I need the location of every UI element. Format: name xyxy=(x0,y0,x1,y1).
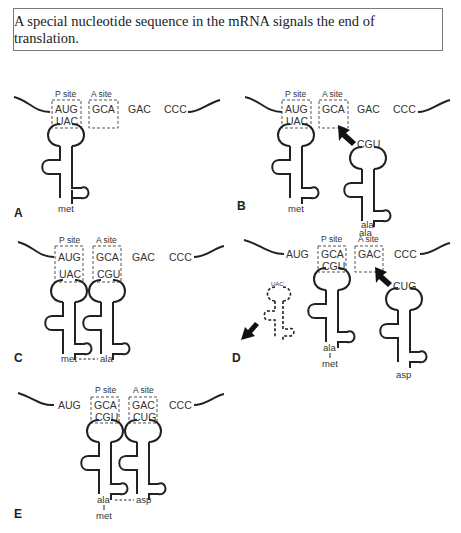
codon: GAC xyxy=(358,248,381,260)
codon: GAC xyxy=(132,251,155,263)
panel-label: B xyxy=(237,199,246,213)
a-site-label: A site xyxy=(96,235,117,245)
a-site-label: A site xyxy=(133,385,154,395)
panel-d: ala AUG P site A site GCA GAC CCC CGU UA… xyxy=(232,219,450,380)
codon: AUG xyxy=(58,251,81,263)
codon: AUG xyxy=(285,103,308,115)
codon: GCA xyxy=(322,103,345,115)
codon: GAC xyxy=(357,103,380,115)
panel-b: P site A site AUG GCA GAC CCC UAC met CG… xyxy=(237,89,450,238)
codon: AUG xyxy=(55,103,78,115)
codon: GCA xyxy=(96,251,119,263)
codon: GCA xyxy=(321,248,344,260)
panel-label: A xyxy=(14,206,23,220)
translation-diagram: P site A site AUG GCA GAC CCC UAC met A … xyxy=(0,0,461,533)
codon: CCC xyxy=(164,103,187,115)
codon: CCC xyxy=(393,103,416,115)
trna-released xyxy=(264,287,294,341)
codon: GAC xyxy=(132,399,155,411)
a-site-label: A site xyxy=(91,89,112,99)
codon: GCA xyxy=(92,103,115,115)
trna-ala xyxy=(83,280,129,360)
trna-ala xyxy=(344,147,390,227)
trna-ala xyxy=(308,268,354,348)
amino-acid: ala xyxy=(323,342,336,353)
amino-acid: ala xyxy=(100,353,113,364)
panel-label: D xyxy=(232,351,241,365)
codon: CCC xyxy=(394,248,417,260)
panel-c: P site A site AUG GCA GAC CCC UAC CGU me… xyxy=(14,235,224,365)
codon: CCC xyxy=(169,251,192,263)
released-anticodon: UAC xyxy=(271,281,284,287)
panel-e: AUG P site A site GCA GAC CCC CGU CUG al… xyxy=(14,385,224,521)
panel-label: E xyxy=(14,507,22,521)
top-label: ala xyxy=(361,219,374,230)
arrow-icon xyxy=(241,322,259,340)
codon: GCA xyxy=(94,399,117,411)
codon: AUG xyxy=(58,399,81,411)
a-site-label: A site xyxy=(322,89,343,99)
codon: GAC xyxy=(128,103,151,115)
amino-acid: asp xyxy=(396,369,411,380)
amino-acid: met xyxy=(322,358,338,369)
anticodon: CGU xyxy=(97,268,120,280)
p-site-label: P site xyxy=(59,235,80,245)
amino-acid: met xyxy=(288,203,304,214)
trna-met xyxy=(42,124,88,204)
amino-acid: asp xyxy=(136,494,151,505)
trna-asp xyxy=(380,288,426,368)
p-site-label: P site xyxy=(321,234,342,244)
codon: CCC xyxy=(169,399,192,411)
trna-met xyxy=(272,124,318,204)
amino-acid: met xyxy=(61,353,77,364)
a-site-label: A site xyxy=(358,234,379,244)
codon: AUG xyxy=(286,248,309,260)
p-site-label: P site xyxy=(55,89,76,99)
anticodon: CGU xyxy=(322,260,345,272)
amino-acid: ala xyxy=(97,494,110,505)
anticodon: CUG xyxy=(393,280,416,292)
p-site-label: P site xyxy=(95,385,116,395)
anticodon: UAC xyxy=(59,268,82,280)
panel-a: P site A site AUG GCA GAC CCC UAC met A xyxy=(14,89,220,220)
amino-acid: met xyxy=(96,510,112,521)
amino-acid: met xyxy=(58,203,74,214)
p-site-label: P site xyxy=(285,89,306,99)
panel-label: C xyxy=(14,351,23,365)
trna-asp xyxy=(119,420,165,500)
